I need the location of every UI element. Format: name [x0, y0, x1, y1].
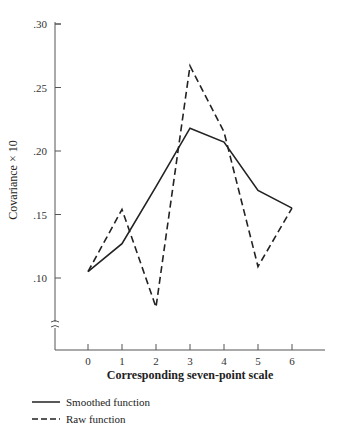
series-layer — [88, 66, 292, 307]
x-tick-label: 0 — [85, 355, 91, 367]
x-tick-label: 1 — [119, 355, 125, 367]
x-tick-label: 3 — [187, 355, 193, 367]
x-axis: 0123456 — [55, 344, 325, 367]
legend: Smoothed function Raw function — [32, 396, 151, 425]
y-tick-label: .25 — [33, 82, 47, 94]
y-axis-title: Covariance × 10 — [6, 140, 20, 219]
x-tick-label: 5 — [255, 355, 261, 367]
legend-raw-label: Raw function — [66, 413, 126, 425]
y-axis: .10.15.20.25.30 — [33, 18, 61, 350]
x-tick-label: 2 — [153, 355, 159, 367]
y-tick-label: .20 — [33, 145, 47, 157]
y-tick-label: .30 — [33, 18, 47, 30]
x-tick-label: 6 — [289, 355, 295, 367]
raw-function-line — [88, 66, 292, 307]
y-tick-label: .15 — [33, 209, 47, 221]
line-chart: .10.15.20.25.30 0123456 Covariance × 10 … — [0, 0, 348, 446]
legend-smoothed-label: Smoothed function — [66, 396, 151, 408]
y-tick-label: .10 — [33, 272, 47, 284]
smoothed-function-line — [88, 128, 292, 272]
x-axis-title: Corresponding seven-point scale — [107, 368, 274, 382]
x-tick-label: 4 — [221, 355, 227, 367]
